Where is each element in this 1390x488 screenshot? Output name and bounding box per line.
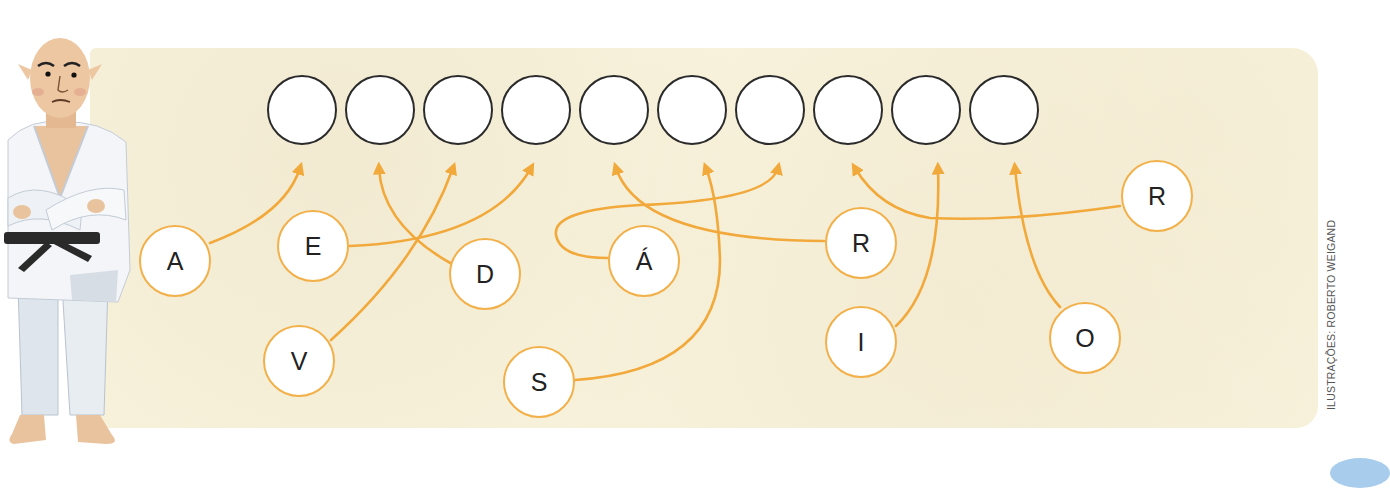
answer-slot-10[interactable] xyxy=(969,75,1039,145)
letter-s: S xyxy=(503,346,575,418)
answer-slot-9[interactable] xyxy=(891,75,961,145)
answer-slot-6[interactable] xyxy=(657,75,727,145)
answer-slot-2[interactable] xyxy=(345,75,415,145)
answer-slot-8[interactable] xyxy=(813,75,883,145)
letter-r-second: R xyxy=(1121,160,1193,232)
page-corner-decoration xyxy=(1330,458,1390,488)
answer-slot-7[interactable] xyxy=(735,75,805,145)
letter-a: A xyxy=(139,225,211,297)
letter-i: I xyxy=(825,306,897,378)
arrow-e-to-slot-4 xyxy=(350,168,531,246)
arrow-d-to-slot-2 xyxy=(379,168,452,264)
illustration-credit: ILUSTRAÇÕES: ROBERTO WEIGAND xyxy=(1325,220,1337,410)
arrow-o-to-slot-10 xyxy=(1015,168,1060,307)
letter-a-acute: Á xyxy=(608,225,680,297)
letter-o: O xyxy=(1049,302,1121,374)
answer-slot-1[interactable] xyxy=(267,75,337,145)
letter-v: V xyxy=(263,325,335,397)
letter-r-first: R xyxy=(825,207,897,279)
answer-slot-4[interactable] xyxy=(501,75,571,145)
letter-d: D xyxy=(449,238,521,310)
arrow-i-to-slot-9 xyxy=(896,168,938,326)
answer-slot-5[interactable] xyxy=(579,75,649,145)
answer-slot-3[interactable] xyxy=(423,75,493,145)
letter-e: E xyxy=(277,210,349,282)
arrow-r2-to-slot-8 xyxy=(855,168,1120,219)
